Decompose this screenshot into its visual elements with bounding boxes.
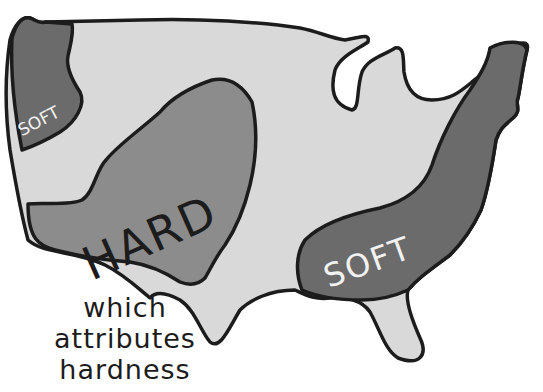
caption: which attributes hardness: [30, 292, 220, 385]
caption-line-1: which: [30, 292, 220, 323]
caption-line-3: hardness: [30, 354, 220, 385]
caption-line-2: attributes: [30, 323, 220, 354]
